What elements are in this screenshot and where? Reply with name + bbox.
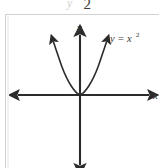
caption-ghost-fragment: y bbox=[67, 0, 73, 10]
curve-label-exponent: 2 bbox=[136, 31, 140, 39]
parabola-left-branch bbox=[54, 42, 81, 95]
parabola-right-branch bbox=[80, 42, 107, 95]
x-axis-label: x bbox=[152, 89, 158, 101]
caption-number: 2 bbox=[83, 0, 92, 12]
figure-root: y2 y bbox=[0, 0, 159, 168]
coordinate-plane-graph: y x y = x 2 bbox=[6, 15, 159, 168]
y-axis-label: y bbox=[76, 21, 82, 33]
plot-frame: y x y = x 2 bbox=[5, 14, 159, 168]
curve-label: y = x 2 bbox=[109, 31, 140, 44]
top-caption: y2 bbox=[0, 0, 159, 14]
curve-label-text: y = x bbox=[109, 33, 132, 44]
